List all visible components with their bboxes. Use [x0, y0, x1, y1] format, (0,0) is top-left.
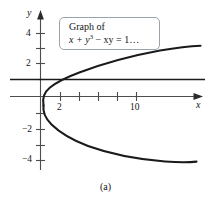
y-tick-label-4: 4 — [26, 29, 31, 39]
x-axis-label: x — [196, 100, 200, 110]
y-axis-arrowhead — [37, 10, 44, 20]
figure-container: y x 4 2 −2 −4 2 10 Graph of x + y3 − xy … — [0, 0, 211, 201]
curve-lower-branch — [43, 106, 196, 163]
callout-equation: x + y3 − xy = 1… — [69, 34, 139, 46]
y-tick-label-neg4: −4 — [22, 155, 32, 165]
equation-tail: − xy = 1… — [93, 34, 139, 45]
figure-caption: (a) — [0, 181, 211, 192]
x-tick-label-10: 10 — [130, 103, 140, 113]
x-tick-label-2: 2 — [57, 103, 62, 113]
callout-heading: Graph of — [69, 21, 105, 33]
y-tick-label-2: 2 — [26, 59, 31, 69]
equation-callout-box: Graph of x + y3 − xy = 1… — [59, 17, 160, 50]
y-tick-label-neg2: −2 — [22, 125, 32, 135]
equation-base: x + y — [69, 34, 90, 45]
y-axis-label: y — [27, 8, 31, 18]
x-axis — [10, 93, 203, 100]
